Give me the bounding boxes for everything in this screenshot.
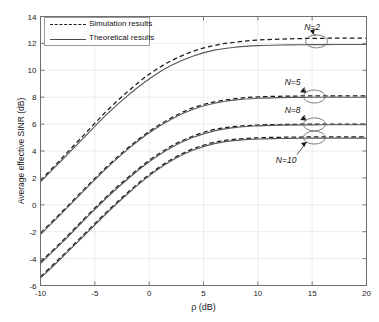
annotation-label-N10: N=10 bbox=[276, 155, 297, 165]
annotation-label-N5: N=5 bbox=[285, 77, 301, 87]
y-axis-label: Average effective SINR (dB) bbox=[16, 98, 26, 204]
y-tick-label-5: 4 bbox=[32, 147, 36, 156]
gridlines bbox=[41, 17, 367, 286]
annotation-leader-N2 bbox=[314, 35, 316, 36]
legend-row-simulation: Simulation results bbox=[45, 18, 149, 32]
x-tick-label-5: 15 bbox=[308, 289, 317, 298]
x-tick-label-1: -5 bbox=[91, 289, 98, 298]
x-axis-label: ρ (dB) bbox=[191, 302, 216, 312]
chart-legend: Simulation results Theoretical results bbox=[44, 17, 150, 46]
annotation-ellipse-N2 bbox=[306, 35, 328, 48]
x-tick-label-6: 20 bbox=[362, 289, 371, 298]
y-tick-label-0: -6 bbox=[29, 281, 36, 290]
figure-container: Simulation results Theoretical results -… bbox=[0, 0, 379, 322]
legend-swatch-dashed bbox=[50, 24, 86, 25]
x-tick-label-2: 0 bbox=[147, 289, 151, 298]
chart-canvas bbox=[0, 0, 379, 322]
y-tick-label-7: 8 bbox=[32, 93, 36, 102]
annotation-ellipse-N5 bbox=[303, 90, 325, 103]
annotation-arrowhead-N10 bbox=[301, 142, 307, 147]
y-tick-label-3: 0 bbox=[32, 200, 36, 209]
annotation-label-N2: N=2 bbox=[304, 22, 320, 32]
y-tick-label-1: -4 bbox=[29, 254, 36, 263]
y-tick-label-10: 14 bbox=[28, 12, 37, 21]
y-tick-label-6: 6 bbox=[32, 120, 36, 129]
annotation-label-N8: N=8 bbox=[285, 105, 301, 115]
y-tick-label-8: 10 bbox=[28, 66, 37, 75]
x-tick-label-4: 10 bbox=[253, 289, 262, 298]
legend-label-simulation: Simulation results bbox=[89, 19, 152, 28]
y-tick-label-2: -2 bbox=[29, 227, 36, 236]
legend-swatch-solid bbox=[50, 39, 86, 40]
y-tick-label-9: 12 bbox=[28, 39, 37, 48]
legend-row-theoretical: Theoretical results bbox=[45, 32, 149, 46]
x-tick-label-3: 5 bbox=[201, 289, 205, 298]
legend-label-theoretical: Theoretical results bbox=[89, 33, 154, 42]
y-tick-label-4: 2 bbox=[32, 173, 36, 182]
